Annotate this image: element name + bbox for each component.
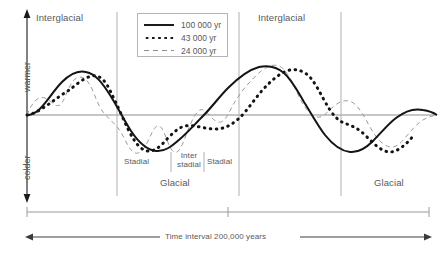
zone-label-glacial-middle: Glacial [160,177,190,188]
legend-label-24000yr: 24 000 yr [181,46,216,56]
sub-zone-label-stadial-right: Stadial [207,157,232,166]
legend-label-43000yr: 43 000 yr [181,33,216,43]
dashed-line-key [143,45,177,57]
series-43000yr-curve [27,70,414,152]
legend-label-100000yr: 100 000 yr [181,20,221,30]
upper-scale-bar [27,207,429,217]
zone-label-interglacial-left: Interglacial [36,12,83,23]
legend-row-100000yr: 100 000 yr [138,18,229,31]
sub-zone-label-interstadial: Inter stadial [175,151,203,169]
solid-line-key [143,19,177,31]
dotted-line-key [143,32,177,44]
series-100000yr-curve [27,66,437,152]
legend-row-24000yr: 24 000 yr [138,44,229,57]
milankovitch-cycles-figure: warmer colder Interglacial Interglacial … [0,0,441,254]
zone-label-glacial-right: Glacial [374,177,404,188]
legend-row-43000yr: 43 000 yr [138,31,229,44]
chart-legend: 100 000 yr 43 000 yr 24 000 yr [137,13,228,57]
y-axis-warmer-label: warmer [22,62,32,92]
sub-zone-label-stadial-left: Stadial [124,157,149,166]
y-axis-colder-label: colder [22,155,32,180]
x-axis-title: Time interval 200,000 years [162,232,269,241]
zone-label-interglacial-right: Interglacial [258,12,305,23]
